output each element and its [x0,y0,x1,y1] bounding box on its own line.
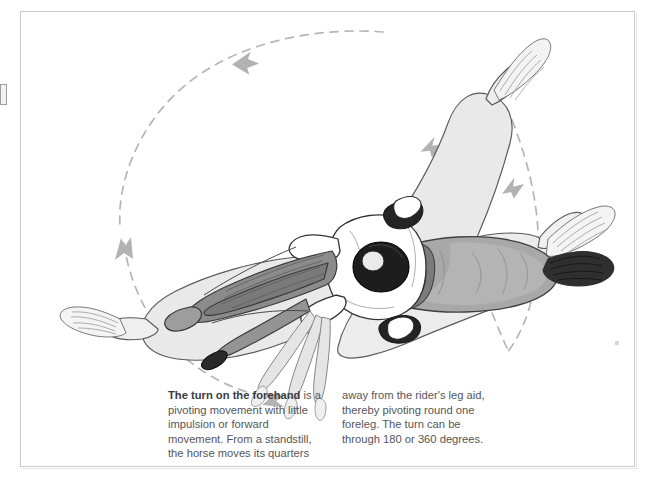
caption-column-left: The turn on the forehand is a pivoting m… [168,388,324,461]
registration-mark-left-icon [0,84,7,105]
caption-lead: The turn on the forehand [168,389,300,401]
caption-block: The turn on the forehand is a pivoting m… [168,388,498,461]
page-root: The turn on the forehand is a pivoting m… [0,0,652,491]
arrow-down-icon [115,237,133,260]
horse-ghost-upper-tail [494,39,551,100]
caption-column-right: away from the rider's leg aid, thereby p… [342,388,498,461]
caption-paragraph-right: away from the rider's leg aid, thereby p… [342,388,498,446]
arrow-upleft-2-icon [498,175,528,202]
horse-ghost-left-tail [60,307,126,337]
caption-paragraph-left: The turn on the forehand is a pivoting m… [168,388,324,461]
horse-solid-tail [543,252,614,286]
